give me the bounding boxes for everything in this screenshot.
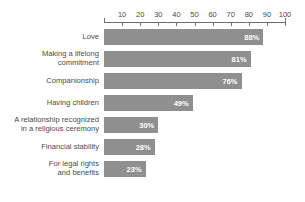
bar-value-label: 30% bbox=[139, 121, 154, 130]
axis-tick-mark bbox=[249, 22, 250, 26]
category-label-line: Making a lifelong bbox=[0, 49, 99, 58]
chart-row: Love88% bbox=[0, 29, 305, 51]
bar-value-label: 76% bbox=[223, 77, 238, 86]
bar-value-label: 49% bbox=[174, 99, 189, 108]
axis-end-cap bbox=[104, 18, 105, 23]
category-label-line: and benefits bbox=[0, 168, 99, 177]
chart-row: Financial stability28% bbox=[0, 139, 305, 161]
axis-tick-mark bbox=[231, 22, 232, 26]
axis-tick-label: 30 bbox=[154, 10, 162, 19]
chart-rows: Love88%Making a lifelongcommitment81%Com… bbox=[0, 29, 305, 183]
axis-tick-label: 70 bbox=[227, 10, 235, 19]
bar-value-label: 28% bbox=[136, 143, 151, 152]
category-label: For legal rightsand benefits bbox=[0, 159, 99, 177]
category-label-line: in a religious ceremony bbox=[0, 124, 99, 133]
chart-row: For legal rightsand benefits23% bbox=[0, 161, 305, 183]
chart-row: Having children49% bbox=[0, 95, 305, 117]
bar-track: 76% bbox=[104, 73, 285, 89]
axis-tick-mark bbox=[213, 22, 214, 26]
axis-tick-mark bbox=[122, 22, 123, 26]
chart-row: Making a lifelongcommitment81% bbox=[0, 51, 305, 73]
bar: 49% bbox=[104, 95, 193, 111]
axis-tick-label: 60 bbox=[208, 10, 216, 19]
category-label: Financial stability bbox=[0, 142, 99, 151]
bar-value-label: 23% bbox=[127, 165, 142, 174]
category-label-line: commitment bbox=[0, 58, 99, 67]
bar-track: 28% bbox=[104, 139, 285, 155]
axis-tick-label: 80 bbox=[245, 10, 253, 19]
horizontal-bar-chart: 102030405060708090100 Love88%Making a li… bbox=[0, 0, 305, 202]
axis-tick-label: 90 bbox=[263, 10, 271, 19]
category-label: Love bbox=[0, 32, 99, 41]
bar-track: 49% bbox=[104, 95, 285, 111]
axis-end-cap bbox=[285, 18, 286, 23]
category-label-line: Financial stability bbox=[0, 142, 99, 151]
category-label-line: Having children bbox=[0, 98, 99, 107]
axis-tick-mark bbox=[140, 22, 141, 26]
bar-value-label: 88% bbox=[244, 33, 259, 42]
category-label-line: A relationship recognized bbox=[0, 115, 99, 124]
bar-value-label: 81% bbox=[232, 55, 247, 64]
axis-tick-mark bbox=[176, 22, 177, 26]
category-label: Making a lifelongcommitment bbox=[0, 49, 99, 67]
bar-track: 81% bbox=[104, 51, 285, 67]
bar-track: 88% bbox=[104, 29, 285, 45]
bar: 76% bbox=[104, 73, 242, 89]
category-label: Companionship bbox=[0, 76, 99, 85]
category-label-line: For legal rights bbox=[0, 159, 99, 168]
axis-tick-mark bbox=[195, 22, 196, 26]
category-label-line: Love bbox=[0, 32, 99, 41]
bar-track: 30% bbox=[104, 117, 285, 133]
axis-tick-label: 10 bbox=[118, 10, 126, 19]
category-label-line: Companionship bbox=[0, 76, 99, 85]
category-label: Having children bbox=[0, 98, 99, 107]
category-label: A relationship recognizedin a religious … bbox=[0, 115, 99, 133]
bar: 81% bbox=[104, 51, 251, 67]
bar: 28% bbox=[104, 139, 155, 155]
axis-tick-label: 50 bbox=[190, 10, 198, 19]
axis-tick-label: 20 bbox=[136, 10, 144, 19]
axis-tick-mark bbox=[267, 22, 268, 26]
bar: 30% bbox=[104, 117, 158, 133]
bar: 88% bbox=[104, 29, 263, 45]
axis-tick-mark bbox=[158, 22, 159, 26]
chart-row: Companionship76% bbox=[0, 73, 305, 95]
axis-tick-label: 40 bbox=[172, 10, 180, 19]
bar-track: 23% bbox=[104, 161, 285, 177]
bar: 23% bbox=[104, 161, 146, 177]
chart-row: A relationship recognizedin a religious … bbox=[0, 117, 305, 139]
